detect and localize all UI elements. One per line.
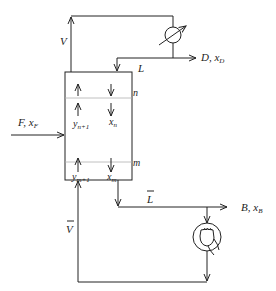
label-bottoms: B, xB: [241, 201, 263, 215]
label-feed: F, xF: [17, 116, 39, 130]
label-y-n1: yn+1: [72, 118, 89, 131]
label-x-m: xm: [106, 171, 117, 184]
condenser-icon: [159, 26, 186, 45]
label-L: L: [137, 62, 144, 74]
label-distillate: D, xD: [200, 51, 224, 65]
condenser-outlet: [117, 43, 196, 71]
reboiler-icon: [193, 223, 221, 255]
label-y-m1: ym+1: [71, 171, 90, 184]
label-stage-n: n: [133, 87, 138, 98]
vapor-bottom-stream: [78, 181, 207, 282]
label-stage-m: m: [133, 157, 140, 168]
vapor-top-stream: [71, 16, 173, 72]
distillation-diagram: V L D, xD F, xF n m yn+1 xn ym+1 xm L V …: [0, 0, 276, 291]
label-V: V: [60, 35, 68, 47]
label-x-n: xn: [108, 116, 117, 129]
label-L-bar: L: [146, 191, 154, 205]
svg-text:L: L: [146, 193, 153, 205]
svg-text:V: V: [66, 223, 74, 235]
bottom-liquid-stream: [118, 180, 227, 207]
label-V-bar: V: [66, 221, 74, 235]
